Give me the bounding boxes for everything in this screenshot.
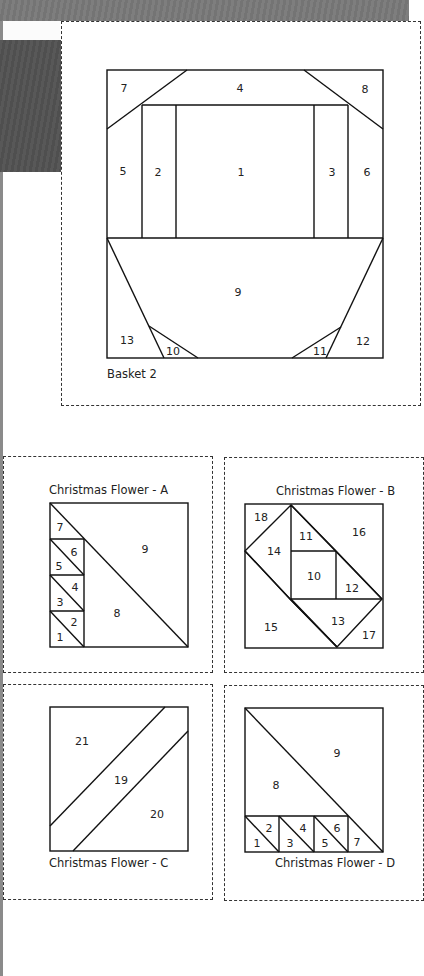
flower-d-caption: Christmas Flower - D (275, 858, 395, 870)
flower-b-piece-16: 16 (352, 527, 366, 538)
flower-c-pattern: 21 19 20 (50, 707, 189, 852)
flower-a-caption: Christmas Flower - A (49, 485, 168, 497)
basket-pattern-lines (107, 70, 384, 359)
basket-piece-4: 4 (237, 83, 244, 94)
flower-a-piece-1: 1 (57, 632, 64, 643)
flower-d-piece-6: 6 (334, 823, 341, 834)
basket-caption: Basket 2 (107, 369, 157, 381)
flower-d-piece-3: 3 (287, 838, 294, 849)
flower-b-piece-10: 10 (307, 571, 321, 582)
flower-b-piece-14: 14 (267, 546, 281, 557)
flower-c-piece-20: 20 (150, 809, 164, 820)
flower-a-piece-9: 9 (142, 544, 149, 555)
flower-b-piece-13: 13 (331, 616, 345, 627)
flower-d-piece-9: 9 (334, 748, 341, 759)
basket-piece-9: 9 (235, 287, 242, 298)
flower-c-piece-19: 19 (114, 775, 128, 786)
flower-b-piece-18: 18 (254, 512, 268, 523)
flower-d-piece-7: 7 (354, 837, 361, 848)
flower-b-pattern: 18 14 11 16 10 12 13 15 17 (245, 504, 384, 649)
basket-piece-10: 10 (166, 346, 180, 357)
flower-d-pattern: 1 2 3 4 5 6 7 8 9 (245, 708, 384, 853)
flower-a-pattern: 7 6 5 4 3 2 1 8 9 (50, 503, 189, 648)
background-top-band (0, 0, 409, 21)
flower-a-piece-4: 4 (72, 582, 79, 593)
flower-b-caption: Christmas Flower - B (276, 486, 395, 498)
basket-piece-6: 6 (364, 167, 371, 178)
basket-piece-7: 7 (121, 83, 128, 94)
basket-piece-11: 11 (313, 346, 327, 357)
flower-a-piece-3: 3 (57, 597, 64, 608)
flower-d-piece-4: 4 (300, 823, 307, 834)
flower-a-piece-5: 5 (56, 561, 63, 572)
flower-b-piece-11: 11 (299, 531, 313, 542)
flower-a-piece-7: 7 (57, 522, 64, 533)
basket-piece-5: 5 (120, 166, 127, 177)
basket-piece-8: 8 (362, 84, 369, 95)
flower-d-piece-8: 8 (273, 780, 280, 791)
flower-d-piece-2: 2 (266, 823, 273, 834)
flower-a-piece-6: 6 (71, 547, 78, 558)
flower-b-piece-15: 15 (264, 622, 278, 633)
flower-b-piece-12: 12 (345, 583, 359, 594)
flower-d-piece-5: 5 (322, 838, 329, 849)
basket-piece-2: 2 (155, 167, 162, 178)
basket-piece-3: 3 (329, 167, 336, 178)
background-white-tab (3, 21, 60, 40)
basket-piece-1: 1 (238, 167, 245, 178)
flower-a-piece-2: 2 (71, 617, 78, 628)
background-dark-block (0, 40, 61, 172)
flower-c-caption: Christmas Flower - C (49, 858, 168, 870)
basket-pattern: 7 4 8 5 2 1 3 6 9 13 10 11 12 (107, 70, 384, 359)
flower-a-piece-8: 8 (114, 608, 121, 619)
flower-b-piece-17: 17 (362, 630, 376, 641)
flower-d-piece-1: 1 (254, 838, 261, 849)
basket-piece-12: 12 (356, 336, 370, 347)
basket-piece-13: 13 (120, 335, 134, 346)
flower-c-piece-21: 21 (75, 736, 89, 747)
